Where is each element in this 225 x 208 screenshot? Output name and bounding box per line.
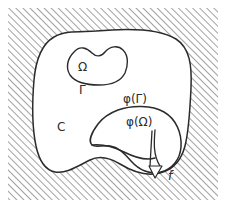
label-c: C [57,121,65,133]
figure-canvas [0,0,225,208]
label-gamma: Γ [79,84,86,96]
label-omega: Ω [78,61,87,73]
label-phi-omega: φ(Ω) [126,116,152,128]
figure-root: Ω Γ C φ(Γ) φ(Ω) f [0,0,225,208]
label-phi-gamma: φ(Γ) [123,93,147,105]
label-f: f [168,170,172,182]
